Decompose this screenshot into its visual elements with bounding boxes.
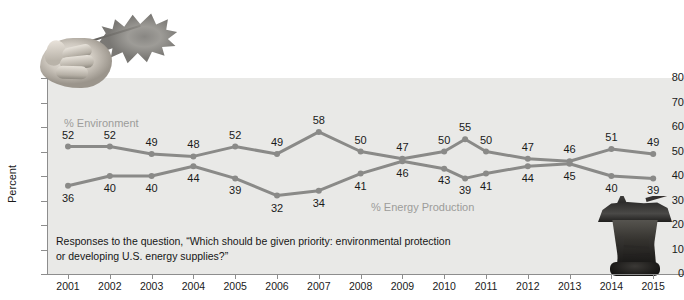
data-point	[190, 163, 196, 169]
series-label-environment: % Environment	[64, 118, 139, 129]
data-point	[107, 173, 113, 179]
data-value-label: 52	[221, 130, 249, 141]
data-value-label: 39	[639, 185, 667, 196]
data-point	[483, 149, 489, 155]
data-value-label: 34	[305, 198, 333, 209]
data-value-label: 49	[138, 137, 166, 148]
data-point	[107, 144, 113, 150]
data-value-label: 58	[305, 115, 333, 126]
data-value-label: 51	[597, 132, 625, 143]
data-point	[274, 151, 280, 157]
data-point	[608, 173, 614, 179]
data-value-label: 52	[96, 130, 124, 141]
data-value-label: 49	[639, 137, 667, 148]
data-value-label: 40	[138, 183, 166, 194]
caption-line-2: developing U.S. energy supplies?”	[68, 250, 228, 262]
data-point	[650, 175, 656, 181]
data-point	[441, 166, 447, 172]
data-value-label: 40	[597, 183, 625, 194]
data-point	[316, 188, 322, 194]
data-value-label: 46	[556, 144, 584, 155]
data-value-label: 48	[179, 139, 207, 150]
data-point	[190, 153, 196, 159]
data-value-label: 41	[347, 181, 375, 192]
series-label-energy-production: % Energy Production	[371, 202, 474, 213]
data-point	[567, 161, 573, 167]
data-value-label: 32	[263, 203, 291, 214]
data-value-label: 36	[54, 193, 82, 204]
data-value-label: 43	[430, 175, 458, 186]
data-value-label: 47	[514, 142, 542, 153]
data-point	[462, 136, 468, 142]
data-point	[483, 171, 489, 177]
data-value-label: 50	[347, 135, 375, 146]
data-point	[525, 156, 531, 162]
data-value-label: 52	[54, 130, 82, 141]
data-point	[358, 171, 364, 177]
data-point	[358, 149, 364, 155]
data-point	[650, 151, 656, 157]
data-point	[462, 175, 468, 181]
data-point	[608, 146, 614, 152]
data-point	[441, 149, 447, 155]
data-point	[149, 151, 155, 157]
data-value-label: 50	[430, 135, 458, 146]
data-value-label: 50	[472, 135, 500, 146]
data-point	[399, 158, 405, 164]
data-point	[65, 144, 71, 150]
data-value-label: 47	[388, 142, 416, 153]
data-point	[65, 183, 71, 189]
data-point	[232, 175, 238, 181]
chart-caption: Responses to the question, “Which should…	[56, 234, 456, 264]
data-point	[232, 144, 238, 150]
data-value-label: 39	[221, 185, 249, 196]
data-value-label: 55	[451, 122, 479, 133]
data-value-label: 40	[96, 183, 124, 194]
data-point	[274, 193, 280, 199]
data-point	[149, 173, 155, 179]
chart-container: Percent 01020304050607080 20012002200320…	[0, 0, 684, 300]
data-point	[316, 129, 322, 135]
data-value-label: 44	[514, 173, 542, 184]
data-value-label: 44	[179, 173, 207, 184]
data-value-label: 45	[556, 171, 584, 182]
data-point	[525, 163, 531, 169]
data-value-label: 41	[472, 181, 500, 192]
data-value-label: 49	[263, 137, 291, 148]
data-value-label: 46	[388, 168, 416, 179]
